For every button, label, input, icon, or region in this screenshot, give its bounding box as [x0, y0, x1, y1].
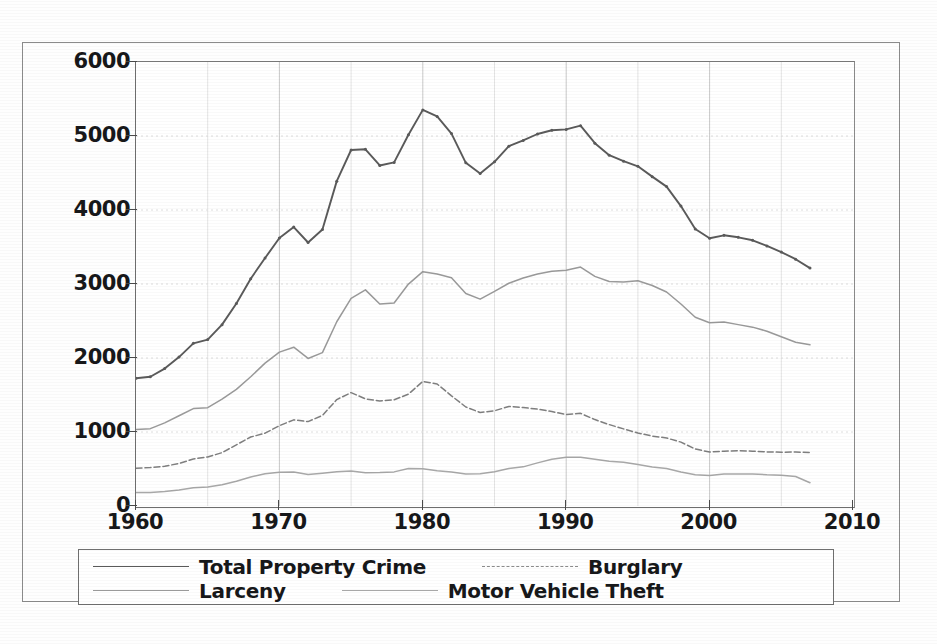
- data-point: [751, 239, 754, 242]
- x-tick-label-1980: 1980: [367, 512, 477, 533]
- data-point: [364, 148, 367, 151]
- data-point: [536, 133, 539, 136]
- data-point: [808, 267, 811, 270]
- x-axis: 196019701980199020002010: [0, 512, 937, 548]
- x-tick-label-1990: 1990: [510, 512, 620, 533]
- y-tick-mark-6000: [126, 61, 137, 62]
- data-point: [264, 257, 267, 260]
- data-point: [708, 237, 711, 240]
- data-point: [507, 145, 510, 148]
- plot-svg: [136, 62, 853, 506]
- data-point: [622, 160, 625, 163]
- legend-entry-burglary[interactable]: Burglary: [482, 554, 683, 580]
- x-tick-mark-1960: [135, 500, 136, 510]
- series-line-motor-vehicle-theft: [136, 457, 810, 492]
- x-tick-mark-2010: [852, 500, 853, 510]
- data-point: [278, 237, 281, 240]
- y-tick-label-5000: 5000: [44, 125, 130, 146]
- y-tick-mark-2000: [126, 357, 137, 358]
- data-point: [694, 227, 697, 230]
- data-point: [321, 228, 324, 231]
- data-point: [665, 185, 668, 188]
- y-tick-label-6000: 6000: [44, 51, 130, 72]
- data-point: [436, 115, 439, 118]
- plot-area: [135, 61, 855, 508]
- data-point: [794, 258, 797, 261]
- x-tick-label-1960: 1960: [80, 512, 190, 533]
- legend-swatch-motor-vehicle-theft: [342, 585, 438, 597]
- y-tick-mark-4000: [126, 209, 137, 210]
- data-point: [149, 375, 152, 378]
- x-tick-mark-1980: [422, 500, 423, 510]
- data-point: [192, 342, 195, 345]
- data-point: [350, 148, 353, 151]
- data-point: [722, 234, 725, 237]
- data-point: [550, 129, 553, 132]
- x-tick-mark-1970: [278, 500, 279, 510]
- series-line-total-property-crime: [136, 110, 810, 378]
- data-point: [235, 302, 238, 305]
- y-tick-label-3000: 3000: [44, 273, 130, 294]
- data-point: [593, 142, 596, 145]
- data-point: [450, 132, 453, 135]
- legend-entry-motor-vehicle-theft[interactable]: Motor Vehicle Theft: [342, 578, 664, 604]
- legend-swatch-total-property-crime: [93, 561, 189, 573]
- data-point: [378, 164, 381, 167]
- y-tick-label-1000: 1000: [44, 421, 130, 442]
- data-point: [335, 180, 338, 183]
- data-point: [178, 356, 181, 359]
- data-point: [765, 244, 768, 247]
- data-point: [636, 165, 639, 168]
- data-point: [608, 154, 611, 157]
- x-tick-label-2010: 2010: [797, 512, 907, 533]
- y-tick-mark-1000: [126, 431, 137, 432]
- data-point: [163, 367, 166, 370]
- legend-label-larceny: Larceny: [199, 581, 286, 601]
- property-crime-line-chart: 0100020003000400050006000 19601970198019…: [0, 0, 937, 644]
- legend-label-burglary: Burglary: [588, 557, 683, 577]
- gridlines: [136, 62, 853, 506]
- y-tick-label-4000: 4000: [44, 199, 130, 220]
- y-axis: 0100020003000400050006000: [34, 61, 130, 508]
- data-point: [221, 323, 224, 326]
- legend-swatch-burglary: [482, 561, 578, 573]
- data-point: [479, 172, 482, 175]
- legend-row-2: Larceny Motor Vehicle Theft: [93, 578, 664, 604]
- data-point: [737, 236, 740, 239]
- series-line-larceny: [136, 267, 810, 429]
- legend-entry-larceny[interactable]: Larceny: [93, 578, 286, 604]
- x-tick-label-2000: 2000: [654, 512, 764, 533]
- data-point: [651, 175, 654, 178]
- data-point: [579, 124, 582, 127]
- data-point: [292, 226, 295, 229]
- data-point: [249, 277, 252, 280]
- series-lines: [136, 108, 811, 492]
- legend-label-total-property-crime: Total Property Crime: [199, 557, 426, 577]
- legend-label-motor-vehicle-theft: Motor Vehicle Theft: [448, 581, 664, 601]
- data-point: [522, 139, 525, 142]
- legend-row-1: Total Property Crime Burglary: [93, 554, 683, 580]
- data-point: [206, 338, 209, 341]
- data-point: [464, 161, 467, 164]
- y-tick-mark-3000: [126, 283, 137, 284]
- x-tick-mark-2000: [709, 500, 710, 510]
- data-point: [393, 161, 396, 164]
- data-point: [307, 241, 310, 244]
- x-tick-label-1970: 1970: [223, 512, 333, 533]
- data-point: [421, 108, 424, 111]
- data-point: [780, 251, 783, 254]
- series-line-burglary: [136, 381, 810, 468]
- y-tick-label-2000: 2000: [44, 347, 130, 368]
- legend: Total Property Crime Burglary Larceny Mo…: [78, 549, 834, 605]
- data-point: [407, 133, 410, 136]
- data-point: [493, 160, 496, 163]
- x-tick-mark-1990: [565, 500, 566, 510]
- legend-swatch-larceny: [93, 585, 189, 597]
- data-point: [565, 128, 568, 131]
- y-tick-mark-5000: [126, 135, 137, 136]
- data-point: [679, 205, 682, 208]
- legend-entry-total-property-crime[interactable]: Total Property Crime: [93, 554, 426, 580]
